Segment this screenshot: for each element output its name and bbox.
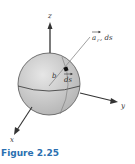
z-label: z bbox=[47, 12, 52, 20]
ar-ds-label: a r , ds bbox=[92, 31, 113, 43]
y-label: y bbox=[120, 102, 126, 110]
svg-text:, ds: , ds bbox=[100, 34, 113, 42]
sphere-diagram: z y x b a r , ds ds bbox=[0, 0, 135, 164]
sphere bbox=[18, 53, 80, 115]
x-axis bbox=[14, 107, 32, 135]
z-axis bbox=[48, 22, 53, 53]
figure-caption: Figure 2.25 bbox=[1, 148, 59, 158]
radius-label: b bbox=[52, 72, 57, 80]
x-label: x bbox=[10, 136, 14, 144]
y-axis bbox=[80, 93, 118, 104]
svg-text:a: a bbox=[92, 34, 96, 42]
svg-text:ds: ds bbox=[64, 76, 72, 84]
